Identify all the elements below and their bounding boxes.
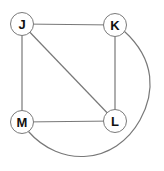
node-j: J (10, 12, 34, 36)
node-l-label: L (111, 115, 119, 128)
node-k-label: K (110, 19, 119, 32)
edge-m-l (22, 121, 115, 122)
node-j-label: J (18, 18, 25, 31)
node-m-label: M (17, 116, 28, 129)
node-l: L (103, 109, 127, 133)
node-k: K (103, 13, 127, 37)
edge-j-l (22, 24, 115, 121)
graph-diagram: J K M L (0, 0, 164, 171)
node-m: M (10, 110, 34, 134)
edge-j-k (22, 24, 115, 25)
